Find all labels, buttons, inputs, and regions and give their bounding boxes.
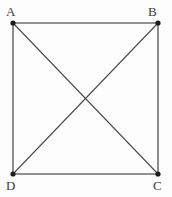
vertex-label-d: D (6, 179, 15, 192)
vertex-dot-a (10, 20, 15, 25)
vertex-dot-d (10, 171, 15, 176)
vertex-dot-c (155, 171, 160, 176)
vertex-label-b: B (148, 5, 157, 18)
vertex-dot-b (155, 20, 160, 25)
vertex-label-a: A (6, 5, 15, 18)
figure-canvas (0, 0, 172, 197)
geometry-figure: A B C D (0, 0, 172, 197)
vertex-label-c: C (153, 179, 162, 192)
